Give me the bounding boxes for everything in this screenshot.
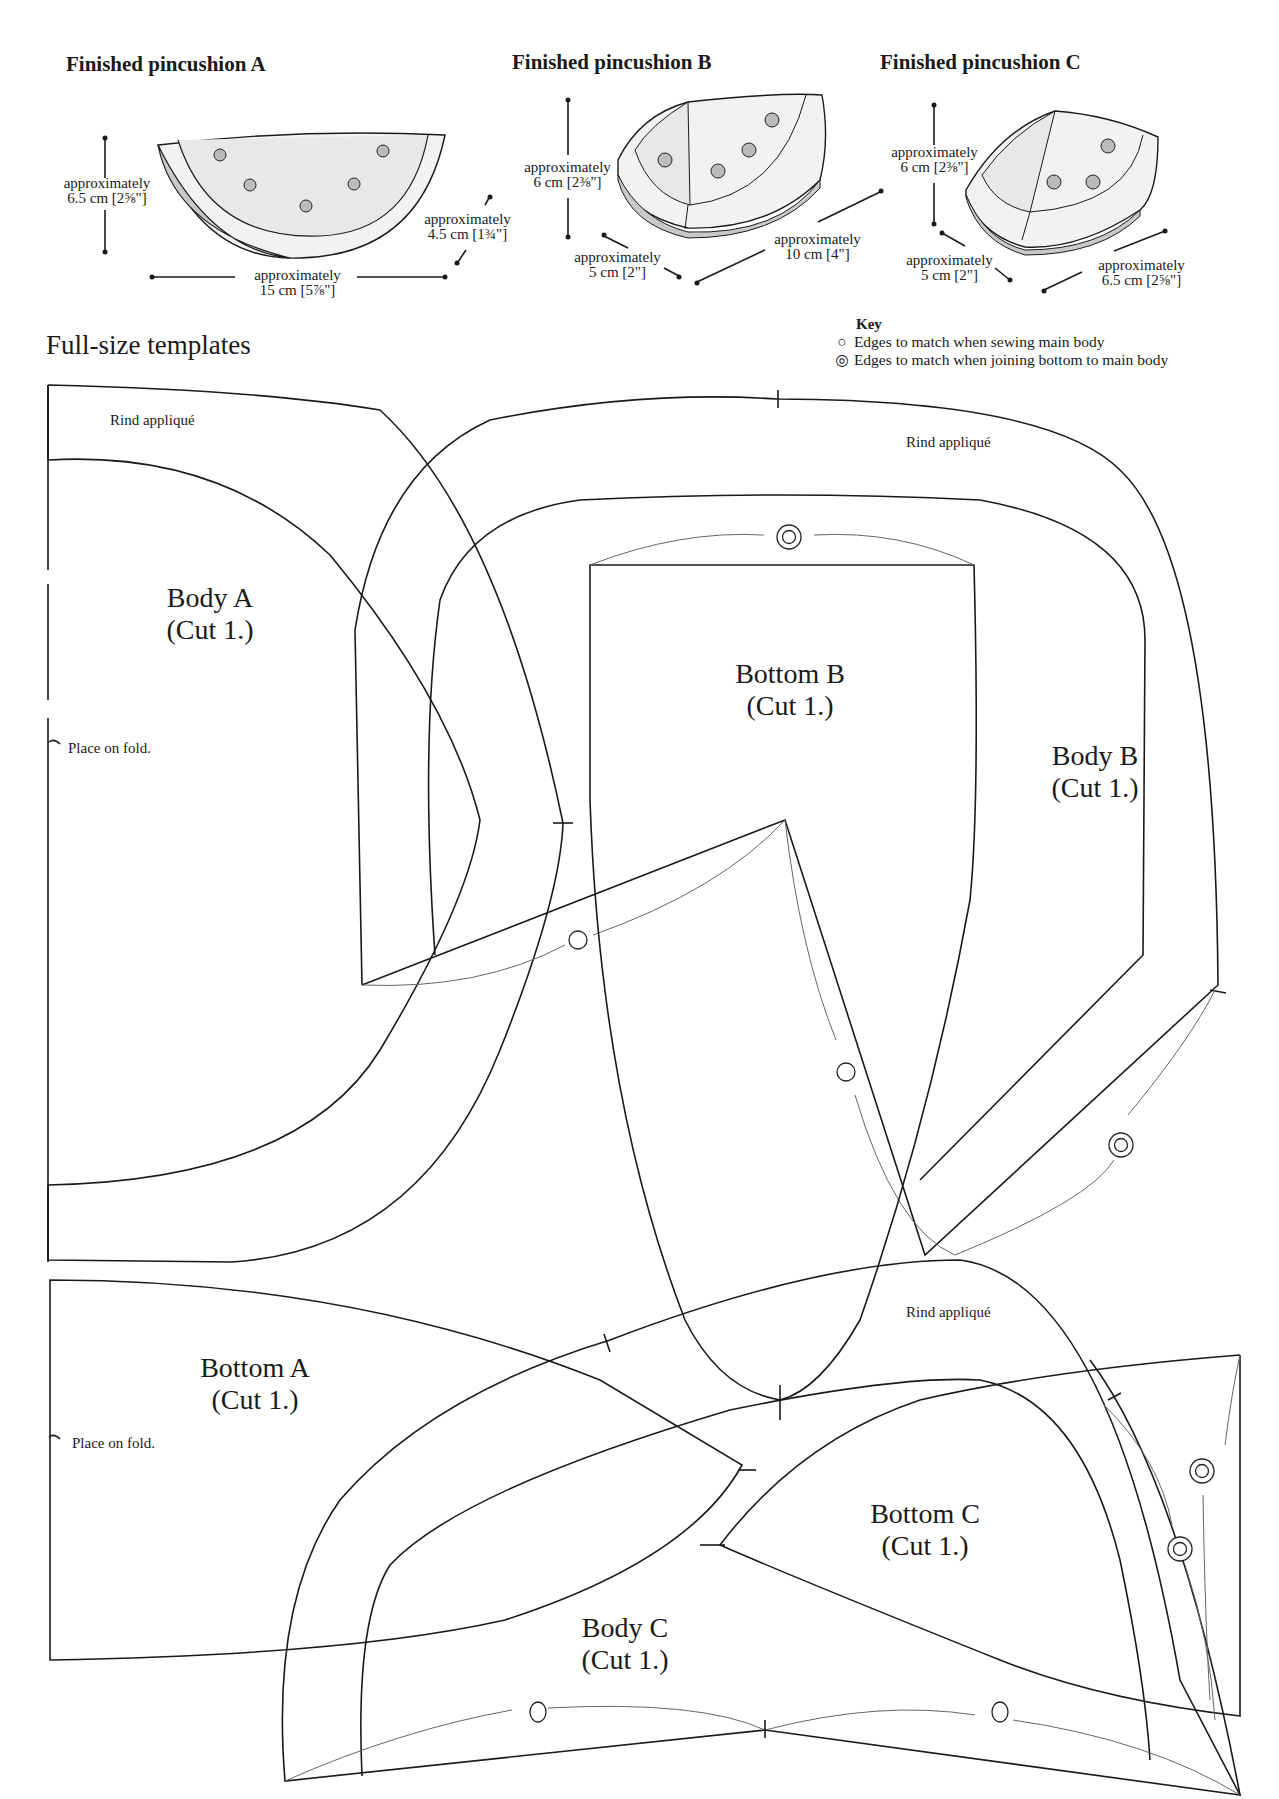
dim-label: approximately: [410, 212, 525, 227]
dim-value: 6 cm [2⅜"]: [510, 175, 625, 190]
dim-c-depth: approximately 5 cm [2"]: [892, 253, 1007, 283]
piece-cut: (Cut 1.): [690, 690, 890, 722]
key-item-sewing: ○ Edges to match when sewing main body: [834, 333, 1168, 351]
piece-name: Body A: [110, 582, 310, 614]
dim-label: approximately: [560, 250, 675, 265]
dim-value: 6.5 cm [2⅝"]: [52, 191, 162, 206]
piece-name: Bottom B: [690, 658, 890, 690]
dim-a-depth: approximately 4.5 cm [1¾"]: [410, 212, 525, 242]
piece-body-a: Body A (Cut 1.): [110, 582, 310, 646]
body-c-outline: [282, 1260, 1240, 1795]
dim-value: 15 cm [5⅞"]: [240, 283, 355, 298]
dim-c-width: approximately 6.5 cm [2⅝"]: [1084, 258, 1199, 288]
dim-label: approximately: [877, 145, 992, 160]
piece-cut: (Cut 1.): [525, 1644, 725, 1676]
dim-value: 6 cm [2⅜"]: [877, 160, 992, 175]
dim-a-height: approximately 6.5 cm [2⅝"]: [52, 176, 162, 206]
piece-body-b: Body B (Cut 1.): [995, 740, 1195, 804]
key-item-label: Edges to match when joining bottom to ma…: [854, 351, 1168, 368]
piece-bottom-b: Bottom B (Cut 1.): [690, 658, 890, 722]
pincushion-a-illustration: [103, 133, 493, 280]
dim-b-depth: approximately 5 cm [2"]: [560, 250, 675, 280]
piece-bottom-a: Bottom A (Cut 1.): [155, 1352, 355, 1416]
piece-name: Body B: [995, 740, 1195, 772]
pincushion-c-title: Finished pincushion C: [880, 50, 1081, 75]
key-item-label: Edges to match when sewing main body: [854, 333, 1105, 350]
rind-label-b: Rind appliqué: [906, 434, 991, 451]
rind-label-c: Rind appliqué: [906, 1304, 991, 1321]
dim-value: 4.5 cm [1¾"]: [410, 227, 525, 242]
piece-name: Bottom C: [825, 1498, 1025, 1530]
key-title: Key: [856, 316, 1168, 333]
dim-label: approximately: [1084, 258, 1199, 273]
dim-label: approximately: [892, 253, 1007, 268]
dim-b-height: approximately 6 cm [2⅜"]: [510, 160, 625, 190]
piece-cut: (Cut 1.): [155, 1384, 355, 1416]
body-a-outline: [48, 385, 573, 1262]
dim-value: 5 cm [2"]: [892, 268, 1007, 283]
circle-icon: ○: [834, 333, 850, 351]
piece-name: Body C: [525, 1612, 725, 1644]
piece-cut: (Cut 1.): [995, 772, 1195, 804]
dim-label: approximately: [52, 176, 162, 191]
piece-cut: (Cut 1.): [110, 614, 310, 646]
piece-name: Bottom A: [155, 1352, 355, 1384]
dim-label: approximately: [510, 160, 625, 175]
piece-cut: (Cut 1.): [825, 1530, 1025, 1562]
fold-label-bottom-a: Place on fold.: [72, 1435, 155, 1452]
double-circle-icon: ◎: [834, 351, 850, 369]
rind-label-a: Rind appliqué: [110, 412, 195, 429]
piece-bottom-c: Bottom C (Cut 1.): [825, 1498, 1025, 1562]
key-legend: Key ○ Edges to match when sewing main bo…: [834, 316, 1168, 369]
dim-value: 10 cm [4"]: [760, 247, 875, 262]
dim-c-height: approximately 6 cm [2⅜"]: [877, 145, 992, 175]
dim-b-width: approximately 10 cm [4"]: [760, 232, 875, 262]
pincushion-b-title: Finished pincushion B: [512, 50, 712, 75]
piece-body-c: Body C (Cut 1.): [525, 1612, 725, 1676]
pincushion-a-title: Finished pincushion A: [66, 52, 266, 77]
dim-value: 5 cm [2"]: [560, 265, 675, 280]
body-b-outline: [355, 390, 1226, 1255]
dim-label: approximately: [760, 232, 875, 247]
single-circle-markers: [530, 931, 1008, 1722]
dim-label: approximately: [240, 268, 355, 283]
bottom-a-outline: [50, 1280, 756, 1660]
dim-value: 6.5 cm [2⅝"]: [1084, 273, 1199, 288]
key-item-joining: ◎ Edges to match when joining bottom to …: [834, 351, 1168, 369]
section-title: Full-size templates: [46, 330, 251, 361]
dim-a-width: approximately 15 cm [5⅞"]: [240, 268, 355, 298]
fold-label-a: Place on fold.: [68, 740, 151, 757]
